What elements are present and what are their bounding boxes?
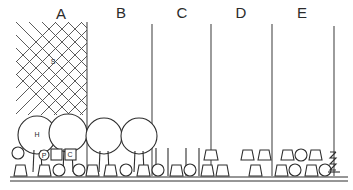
canopy-tree-2 xyxy=(49,114,87,172)
shrub-circle xyxy=(152,164,164,176)
shrub-trapezoid xyxy=(275,165,288,176)
shrub-circle xyxy=(53,164,65,176)
canopy-tree-1-label: H xyxy=(34,131,39,138)
section-label-c: C xyxy=(177,4,188,21)
section-label-a: A xyxy=(56,5,66,22)
hatch-zone-label: S xyxy=(51,58,56,65)
marked-circle-p-label: P xyxy=(42,152,47,159)
shrub-trapezoid xyxy=(281,150,294,160)
shrub-trapezoid xyxy=(309,150,322,160)
section-label-b: B xyxy=(116,4,126,21)
section-label-e: E xyxy=(297,4,307,21)
hatched-area-a xyxy=(0,18,177,118)
marked-square-c-label: C xyxy=(67,151,72,158)
shrub-circle xyxy=(12,147,24,159)
canopy-tree-1: H xyxy=(18,116,56,172)
canopy-tree-3 xyxy=(86,118,122,172)
shrub-trapezoid xyxy=(216,165,229,176)
shrub-trapezoid xyxy=(204,150,218,160)
shrub-square xyxy=(51,149,62,160)
shrub-trapezoid xyxy=(241,150,254,160)
shrub-trapezoid xyxy=(86,165,99,176)
shrub-trapezoid xyxy=(258,150,271,160)
shrub-trapezoid xyxy=(201,165,214,176)
shrub-trapezoid xyxy=(104,165,117,176)
shrub-trapezoid xyxy=(38,165,51,176)
shrub-circle xyxy=(73,164,85,176)
shrub-circle xyxy=(319,164,331,176)
shrub-circle xyxy=(184,164,196,176)
section-label-d: D xyxy=(236,4,247,21)
profile-diagram: S A B C D E H P C xyxy=(0,0,353,190)
shrub-circle xyxy=(295,149,307,161)
shrub-trapezoid xyxy=(14,165,27,176)
diagram-canvas: S A B C D E H P C xyxy=(0,0,353,190)
shrub-circle xyxy=(289,164,301,176)
shrub-trapezoid xyxy=(170,165,183,176)
shrub-circle xyxy=(120,164,132,176)
shrub-trapezoid xyxy=(249,165,262,176)
shrub-trapezoid xyxy=(305,165,318,176)
shrub-trapezoid xyxy=(137,165,150,176)
